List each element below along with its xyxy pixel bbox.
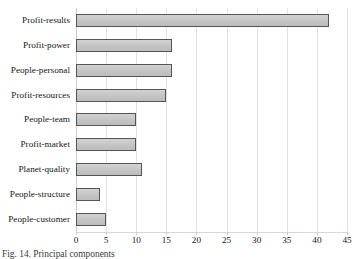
y-axis-category-labels: Profit-results Profit-power People-perso… xyxy=(0,8,70,232)
bar-row xyxy=(76,157,347,182)
y-axis-label: People-personal xyxy=(0,58,70,83)
y-axis-label: Profit-power xyxy=(0,33,70,58)
bar-row xyxy=(76,182,347,207)
gridline xyxy=(347,8,348,232)
bar[interactable] xyxy=(76,188,100,201)
x-tick-label: 0 xyxy=(61,236,91,245)
y-axis-label: People-customer xyxy=(0,207,70,232)
bar-row xyxy=(76,132,347,157)
x-tick-label: 45 xyxy=(332,236,358,245)
bars-layer xyxy=(76,8,347,232)
bar-row xyxy=(76,58,347,83)
y-axis-label: Profit-resources xyxy=(0,83,70,108)
bar[interactable] xyxy=(76,113,136,126)
bar[interactable] xyxy=(76,39,172,52)
y-axis-label: Profit-market xyxy=(0,132,70,157)
x-tick-label: 10 xyxy=(121,236,151,245)
bar[interactable] xyxy=(76,89,166,102)
x-tick-label: 5 xyxy=(91,236,121,245)
bar[interactable] xyxy=(76,163,142,176)
plot-area xyxy=(76,8,347,232)
x-tick-label: 40 xyxy=(302,236,332,245)
bar-row xyxy=(76,207,347,232)
bar[interactable] xyxy=(76,138,136,151)
figure-caption: Fig. 14. Principal components xyxy=(2,250,115,259)
bar-chart-figure: Profit-results Profit-power People-perso… xyxy=(0,0,358,259)
bar-row xyxy=(76,8,347,33)
bar-row xyxy=(76,83,347,108)
x-tick-label: 20 xyxy=(181,236,211,245)
x-tick-label: 25 xyxy=(212,236,242,245)
y-axis-label: People-team xyxy=(0,108,70,133)
x-axis-line xyxy=(76,232,347,233)
bar-row xyxy=(76,108,347,133)
y-axis-label: Planet-quality xyxy=(0,157,70,182)
y-axis-label: Profit-results xyxy=(0,8,70,33)
x-tick-label: 35 xyxy=(272,236,302,245)
x-tick-label: 15 xyxy=(151,236,181,245)
bar-row xyxy=(76,33,347,58)
bar[interactable] xyxy=(76,213,106,226)
bar[interactable] xyxy=(76,14,329,27)
bar[interactable] xyxy=(76,64,172,77)
x-tick-label: 30 xyxy=(242,236,272,245)
y-axis-label: People-structure xyxy=(0,182,70,207)
